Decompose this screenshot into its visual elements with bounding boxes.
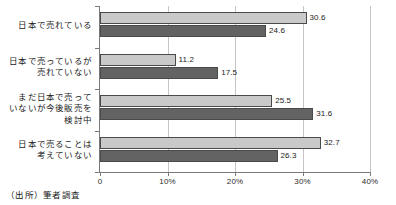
category-label-line: 日本で売ることは xyxy=(0,139,92,151)
x-axis-tick xyxy=(168,172,169,176)
x-axis-tick xyxy=(303,172,304,176)
x-axis-tick-label: 40% xyxy=(362,177,378,186)
category-label-line: 検討中 xyxy=(0,115,92,127)
bar-group: まだ日本で売っていないが今後販売を検討中25.531.6 xyxy=(0,89,396,131)
category-label: 日本で売っているが売れていない xyxy=(0,56,92,79)
category-label: 日本で売ることは考えていない xyxy=(0,139,92,162)
x-axis-tick xyxy=(235,172,236,176)
category-label: 日本で売れている xyxy=(0,20,92,32)
category-label-line: 考えていない xyxy=(0,150,92,162)
bar-value-label: 11.2 xyxy=(179,54,194,66)
bar-value-label: 30.6 xyxy=(310,12,326,24)
bar-value-label: 25.5 xyxy=(275,95,291,107)
source-note: （出所）筆者調査 xyxy=(6,188,80,200)
x-axis-tick-label: 10% xyxy=(159,177,175,186)
bar xyxy=(100,95,272,107)
bar-value-label: 31.6 xyxy=(316,108,332,120)
y-axis-tick xyxy=(95,172,100,173)
bar-value-label: 17.5 xyxy=(221,67,237,79)
category-label-line: いないが今後販売を xyxy=(0,103,92,115)
bar xyxy=(100,108,313,120)
x-axis-tick-label: 30% xyxy=(294,177,310,186)
category-label-line: 日本で売っているが xyxy=(0,56,92,68)
category-label-line: 売れていない xyxy=(0,67,92,79)
bar xyxy=(100,67,218,79)
x-axis-tick-label: 20% xyxy=(227,177,243,186)
x-axis-tick xyxy=(370,172,371,176)
bar xyxy=(100,54,176,66)
bar-value-label: 26.3 xyxy=(281,150,297,162)
bar-chart-figure: 010%20%30%40% 日本で売れている30.624.6日本で売っているが売… xyxy=(0,0,396,205)
bar-group: 日本で売れている30.624.6 xyxy=(0,6,396,48)
bar xyxy=(100,137,321,149)
category-label: まだ日本で売っていないが今後販売を検討中 xyxy=(0,92,92,127)
x-axis-tick-label: 0 xyxy=(98,177,103,186)
bar xyxy=(100,25,266,37)
bar-group: 日本で売っているが売れていない11.217.5 xyxy=(0,48,396,90)
bar xyxy=(100,12,307,24)
bar xyxy=(100,150,278,162)
bar-value-label: 24.6 xyxy=(269,25,285,37)
bar-value-label: 32.7 xyxy=(324,137,340,149)
category-label-line: 日本で売れている xyxy=(0,20,92,32)
category-label-line: まだ日本で売って xyxy=(0,92,92,104)
x-axis-tick xyxy=(100,172,101,176)
bar-group: 日本で売ることは考えていない32.726.3 xyxy=(0,131,396,173)
